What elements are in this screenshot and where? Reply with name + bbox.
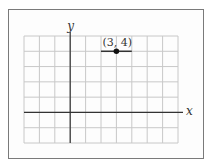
x-axis-label: x: [186, 105, 193, 117]
grid-lines: [24, 36, 178, 143]
point-label: (3, 4): [102, 37, 132, 48]
coordinate-plane: [0, 0, 212, 166]
y-axis-label: y: [67, 20, 74, 32]
data-point: [114, 48, 120, 54]
points: [114, 48, 120, 54]
